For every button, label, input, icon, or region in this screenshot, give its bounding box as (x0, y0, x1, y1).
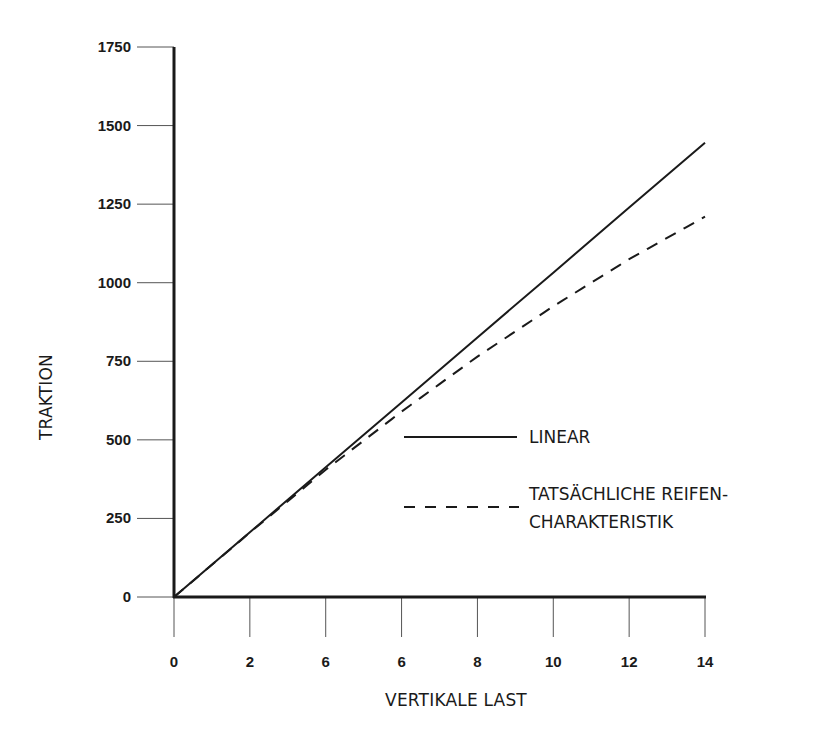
x-tick-label: 0 (170, 653, 178, 670)
x-tick-label: 10 (545, 653, 562, 670)
legend-actual-label-line1: TATSÄCHLICHE REIFEN- (528, 484, 728, 504)
y-tick-label: 1500 (98, 117, 131, 134)
y-tick-label: 1750 (98, 38, 131, 55)
x-axis-title: VERTIKALE LAST (385, 690, 527, 710)
y-tick-label: 250 (106, 509, 131, 526)
traction-chart: 02505007501000125015001750 02668101214 T… (0, 0, 821, 750)
actual-tire-characteristic-line (174, 217, 705, 597)
legend-linear-label: LINEAR (529, 427, 591, 447)
x-tick-label: 12 (621, 653, 638, 670)
x-tick-label: 14 (697, 653, 714, 670)
x-tick-label: 6 (322, 653, 330, 670)
y-tick-label: 750 (106, 352, 131, 369)
x-tick-label: 6 (397, 653, 405, 670)
legend-actual-label-line2: CHARAKTERISTIK (529, 512, 674, 532)
y-tick-label: 1000 (98, 274, 131, 291)
legend: LINEAR TATSÄCHLICHE REIFEN- CHARAKTERIST… (404, 427, 728, 532)
y-tick-label: 500 (106, 431, 131, 448)
x-tick-label: 8 (473, 653, 481, 670)
y-tick-label: 0 (123, 588, 131, 605)
y-axis-ticks: 02505007501000125015001750 (98, 38, 174, 605)
y-tick-label: 1250 (98, 195, 131, 212)
y-axis-title: TRAKTION (36, 354, 56, 441)
x-axis-ticks: 02668101214 (170, 597, 714, 670)
x-tick-label: 2 (246, 653, 254, 670)
